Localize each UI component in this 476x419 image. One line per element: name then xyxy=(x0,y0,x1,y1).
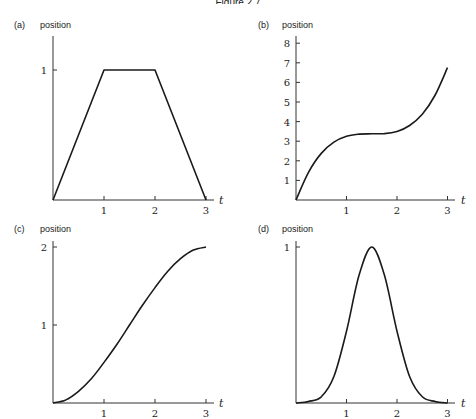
x-tick-label: 1 xyxy=(343,205,349,216)
y-tick-label: 1 xyxy=(41,65,47,76)
x-tick-label: 2 xyxy=(152,408,158,419)
figure-title-clipped: Figure 2.7 xyxy=(215,0,260,8)
y-tick-label: 4 xyxy=(284,117,290,128)
panel-label: (b) xyxy=(258,20,269,30)
panel-d: (d) position 1 1 2 3 t xyxy=(258,224,466,419)
y-ticks: 12345678 xyxy=(284,38,300,186)
x-tick-label: 2 xyxy=(394,205,400,216)
panel-label: (c) xyxy=(14,224,25,234)
y-tick-label: 5 xyxy=(284,97,290,108)
position-curve xyxy=(53,247,206,403)
x-tick-label: 2 xyxy=(394,408,400,419)
x-axis-label: t xyxy=(219,397,224,410)
y-axis-label: position xyxy=(282,20,313,30)
panel-a: (a) position 1 1 2 3 t xyxy=(14,20,224,216)
position-curve xyxy=(53,70,206,200)
panel-label: (d) xyxy=(258,224,269,234)
position-curve xyxy=(296,68,448,200)
y-axis-label: position xyxy=(40,20,71,30)
x-tick-label: 3 xyxy=(203,205,209,216)
panel-label: (a) xyxy=(14,20,25,30)
y-tick-label: 1 xyxy=(284,242,290,253)
y-axis-label: position xyxy=(282,224,313,234)
x-tick-label: 3 xyxy=(444,408,450,419)
x-tick-label: 1 xyxy=(101,408,107,419)
y-tick-label: 3 xyxy=(284,136,290,147)
x-tick-label: 3 xyxy=(203,408,209,419)
y-tick-label: 7 xyxy=(284,58,290,69)
x-axis-label: t xyxy=(461,397,466,410)
x-tick-label: 3 xyxy=(444,205,450,216)
position-curve xyxy=(296,247,448,403)
x-tick-label: 2 xyxy=(152,205,158,216)
y-tick-label: 8 xyxy=(284,38,290,49)
y-tick-label: 1 xyxy=(41,320,47,331)
y-axis-label: position xyxy=(40,224,71,234)
x-tick-label: 1 xyxy=(343,408,349,419)
x-tick-label: 1 xyxy=(101,205,107,216)
figure-title: Figure 2.7 xyxy=(215,0,260,8)
panel-c: (c) position 1 2 1 2 3 t xyxy=(14,224,224,419)
y-tick-label: 2 xyxy=(284,156,290,167)
y-tick-label: 6 xyxy=(284,77,290,88)
x-axis-label: t xyxy=(219,194,224,207)
panel-b: (b) position 12345678 1 2 3 t xyxy=(258,20,466,216)
figure-canvas: Figure 2.7 (a) position 1 1 2 3 t (b) po… xyxy=(0,0,476,419)
x-axis-label: t xyxy=(461,194,466,207)
y-tick-label: 2 xyxy=(41,242,47,253)
y-tick-label: 1 xyxy=(284,175,290,186)
